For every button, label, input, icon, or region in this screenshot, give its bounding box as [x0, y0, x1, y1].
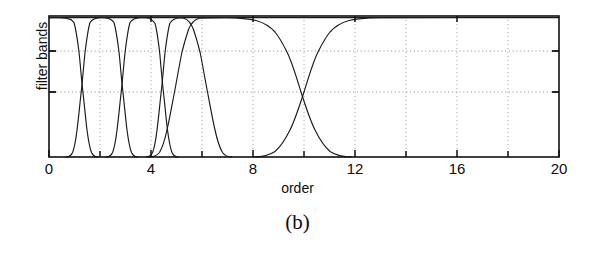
- y-axis-label: filter bands: [34, 0, 50, 136]
- figure-panel: filter bands 0 4 8 12 16 20 order (b): [0, 0, 595, 262]
- x-axis-label: order: [0, 180, 595, 196]
- x-tick-label-4: 4: [131, 160, 171, 177]
- x-tick-label-0: 0: [29, 160, 69, 177]
- x-tick-label-12: 12: [335, 160, 375, 177]
- y-axis-label-wrap: filter bands: [0, 30, 40, 150]
- x-tick-label-16: 16: [437, 160, 477, 177]
- x-tick-label-8: 8: [233, 160, 273, 177]
- figure-caption: (b): [0, 210, 595, 235]
- x-tick-label-20: 20: [539, 160, 579, 177]
- plot-background: [49, 16, 559, 157]
